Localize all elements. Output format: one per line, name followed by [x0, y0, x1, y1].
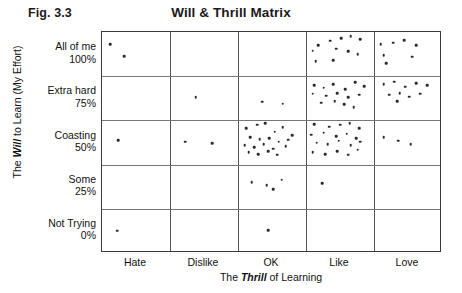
scatter-point [350, 35, 353, 38]
scatter-point [310, 133, 313, 136]
scatter-point [332, 59, 335, 62]
scatter-point [415, 44, 418, 47]
y-axis-tick-labels: All of me100%Extra hard75%Coasting50%Som… [0, 31, 96, 252]
scatter-point [419, 93, 422, 96]
scatter-point [426, 84, 429, 87]
scatter-point [339, 124, 342, 127]
scatter-point [363, 85, 366, 88]
x-tick-label: Like [305, 256, 373, 268]
y-tick-percent: 25% [4, 185, 96, 197]
scatter-point [415, 82, 418, 85]
scatter-point [123, 55, 126, 58]
scatter-point [346, 132, 349, 135]
x-axis-title-pre: The [220, 271, 241, 283]
scatter-point [267, 150, 270, 153]
y-tick-label: All of me100% [4, 40, 96, 65]
scatter-point [256, 124, 259, 127]
scatter-point [287, 139, 290, 142]
x-tick-label: Dislike [169, 256, 237, 268]
scatter-point [354, 81, 357, 84]
scatter-point [184, 140, 187, 143]
scatter-point [340, 37, 343, 40]
scatter-point [329, 40, 332, 43]
x-axis-tick-labels: HateDislikeOKLikeLove [101, 256, 441, 270]
scatter-point [250, 181, 253, 184]
scatter-point [404, 86, 407, 89]
x-tick-label: Love [373, 256, 441, 268]
scatter-point [408, 95, 411, 98]
scatter-point [322, 131, 325, 134]
scatter-point [347, 154, 350, 157]
scatter-point [359, 140, 362, 143]
y-tick-label: Extra hard75% [4, 84, 96, 109]
scatter-point [347, 96, 350, 99]
scatter-point [312, 49, 315, 52]
scatter-point [403, 39, 406, 42]
scatter-point [324, 153, 327, 156]
scatter-point [109, 43, 112, 46]
scatter-point [263, 143, 266, 146]
scatter-point [273, 131, 276, 134]
scatter-point [253, 146, 256, 149]
scatter-point [382, 54, 385, 57]
scatter-point [258, 138, 261, 141]
y-tick-name: All of me [4, 40, 96, 52]
scatter-point [264, 122, 267, 125]
scatter-point [385, 62, 388, 65]
scatter-point [257, 153, 260, 156]
y-tick-percent: 0% [4, 229, 96, 241]
scatter-point [350, 144, 353, 147]
scatter-point [282, 126, 285, 129]
scatter-point [272, 147, 275, 150]
scatter-point [248, 151, 251, 154]
scatter-point [380, 43, 383, 46]
grid-hline [102, 165, 440, 166]
scatter-point [278, 140, 281, 143]
grid-vline [238, 32, 239, 251]
y-tick-label: Some25% [4, 173, 96, 198]
scatter-point [411, 55, 414, 58]
x-tick-label: Hate [101, 256, 169, 268]
scatter-point [335, 135, 338, 138]
scatter-point [282, 102, 285, 105]
grid-hline [102, 76, 440, 77]
y-tick-percent: 75% [4, 97, 96, 109]
scatter-point [249, 136, 252, 139]
scatter-point [343, 103, 346, 106]
scatter-point [322, 86, 325, 89]
scatter-point [320, 101, 323, 104]
scatter-point [359, 38, 362, 41]
scatter-point [267, 229, 270, 232]
grid-hline [102, 120, 440, 121]
scatter-point [388, 93, 391, 96]
scatter-point [396, 100, 399, 103]
scatter-point [382, 136, 385, 139]
scatter-point [268, 137, 271, 140]
scatter-point [335, 47, 338, 50]
scatter-point [317, 44, 320, 47]
scatter-point [211, 142, 214, 145]
grid-vline [306, 32, 307, 251]
y-tick-name: Some [4, 173, 96, 185]
y-tick-label: Coasting50% [4, 129, 96, 154]
scatter-point [358, 93, 361, 96]
x-tick-label: OK [237, 256, 305, 268]
scatter-point [336, 92, 339, 95]
y-tick-percent: 100% [4, 53, 96, 65]
grid-vline [374, 32, 375, 251]
scatter-point [409, 143, 412, 146]
grid-hline [102, 209, 440, 210]
chart-title: Will & Thrill Matrix [0, 5, 462, 20]
scatter-point [245, 127, 248, 130]
scatter-point [393, 80, 396, 83]
scatter-point [195, 96, 198, 99]
scatter-point [347, 50, 350, 53]
scatter-point [382, 83, 385, 86]
scatter-point [244, 144, 247, 147]
y-tick-name: Not Trying [4, 217, 96, 229]
scatter-point [117, 139, 120, 142]
scatter-point [399, 92, 402, 95]
scatter-point [265, 184, 268, 187]
scatter-point [352, 106, 355, 109]
scatter-point [276, 154, 279, 157]
